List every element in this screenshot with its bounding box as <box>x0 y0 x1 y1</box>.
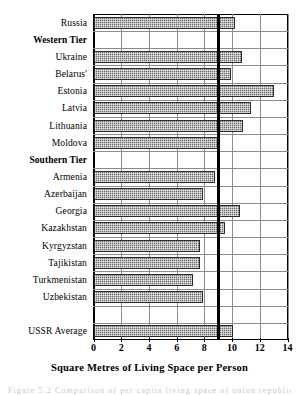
row-separator <box>93 117 288 118</box>
row-separator <box>93 100 288 101</box>
row-separator <box>93 168 288 169</box>
category-label: Kyrgyzstan <box>0 241 87 251</box>
bar-row: Russia <box>0 14 299 31</box>
bar <box>94 222 226 234</box>
reference-line <box>217 14 220 340</box>
category-label: Armenia <box>0 172 87 182</box>
tier-header-row: Western Tier <box>0 31 299 48</box>
x-tick-label: 0 <box>91 342 96 354</box>
bar <box>94 17 235 29</box>
bar-row: Azerbaijan <box>0 186 299 203</box>
bar <box>94 240 201 252</box>
bar-row: Latvia <box>0 100 299 117</box>
bar-row: Tajikistan <box>0 254 299 271</box>
bar <box>94 188 203 200</box>
tier-label: Southern Tier <box>0 155 87 165</box>
bar-row: Moldova <box>0 134 299 151</box>
row-separator <box>93 237 288 238</box>
bar-chart: RussiaWestern TierUkraineBelarus'Estonia… <box>0 0 299 395</box>
figure-caption: Figure 5.2 Comparison of per capita livi… <box>8 386 291 395</box>
category-label: Turkmenistan <box>0 275 87 285</box>
row-separator <box>93 151 288 152</box>
category-label: Uzbekistan <box>0 292 87 302</box>
x-tick-label: 6 <box>174 342 179 354</box>
bar-row: Georgia <box>0 203 299 220</box>
x-tick-label: 4 <box>146 342 151 354</box>
bar <box>94 102 252 114</box>
x-tick-label: 14 <box>283 342 293 354</box>
category-label: Russia <box>0 18 87 28</box>
category-label: Moldova <box>0 138 87 148</box>
row-separator <box>93 48 288 49</box>
category-label: Azerbaijan <box>0 189 87 199</box>
bar-row: Estonia <box>0 83 299 100</box>
row-separator <box>93 65 288 66</box>
row-separator <box>93 220 288 221</box>
bar-row: Belarus' <box>0 65 299 82</box>
bar <box>94 120 244 132</box>
bar <box>94 85 274 97</box>
bar-row: Kazakhstan <box>0 220 299 237</box>
row-separator <box>93 289 288 290</box>
bar-row: Uzbekistan <box>0 289 299 306</box>
category-label: Latvia <box>0 103 87 113</box>
category-label: Ukraine <box>0 52 87 62</box>
x-tick-label: 10 <box>227 342 237 354</box>
row-separator <box>93 186 288 187</box>
x-tick-label: 12 <box>255 342 265 354</box>
category-label: Georgia <box>0 206 87 216</box>
bar-rows: RussiaWestern TierUkraineBelarus'Estonia… <box>0 14 299 340</box>
category-label: Lithuania <box>0 121 87 131</box>
bar-row: Armenia <box>0 168 299 185</box>
row-separator <box>93 306 288 307</box>
bar-row <box>0 306 299 323</box>
tier-label: Western Tier <box>0 35 87 45</box>
x-tick-label: 8 <box>202 342 207 354</box>
x-tick-label: 2 <box>119 342 124 354</box>
row-separator <box>93 134 288 135</box>
row-separator <box>93 254 288 255</box>
bar <box>94 68 231 80</box>
bar <box>94 325 234 337</box>
row-separator <box>93 323 288 324</box>
bar <box>94 291 203 303</box>
category-label: Kazakhstan <box>0 223 87 233</box>
tier-header-row: Southern Tier <box>0 151 299 168</box>
bar-row: Turkmenistan <box>0 271 299 288</box>
row-separator <box>93 203 288 204</box>
bar-row: Ukraine <box>0 48 299 65</box>
bar <box>94 257 201 269</box>
row-separator <box>93 31 288 32</box>
bar-row: Kyrgyzstan <box>0 237 299 254</box>
category-label: Belarus' <box>0 69 87 79</box>
bar <box>94 137 220 149</box>
row-separator <box>93 271 288 272</box>
x-axis-label: Square Metres of Living Space per Person <box>0 362 299 373</box>
category-label: USSR Average <box>0 326 87 336</box>
bar <box>94 171 216 183</box>
bar <box>94 274 194 286</box>
bar-row: Lithuania <box>0 117 299 134</box>
category-label: Estonia <box>0 86 87 96</box>
category-label: Tajikistan <box>0 258 87 268</box>
x-axis-ticks: 02468101214 <box>0 342 299 356</box>
row-separator <box>93 83 288 84</box>
